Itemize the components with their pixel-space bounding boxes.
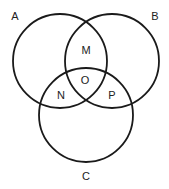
venn-diagram: A B C M O N P — [0, 0, 169, 189]
region-label-m: M — [81, 44, 90, 56]
set-label-c: C — [82, 170, 90, 182]
region-label-p: P — [108, 89, 115, 101]
region-label-o: O — [81, 74, 90, 86]
region-label-n: N — [57, 89, 65, 101]
set-label-b: B — [151, 10, 158, 22]
set-label-a: A — [11, 10, 19, 22]
